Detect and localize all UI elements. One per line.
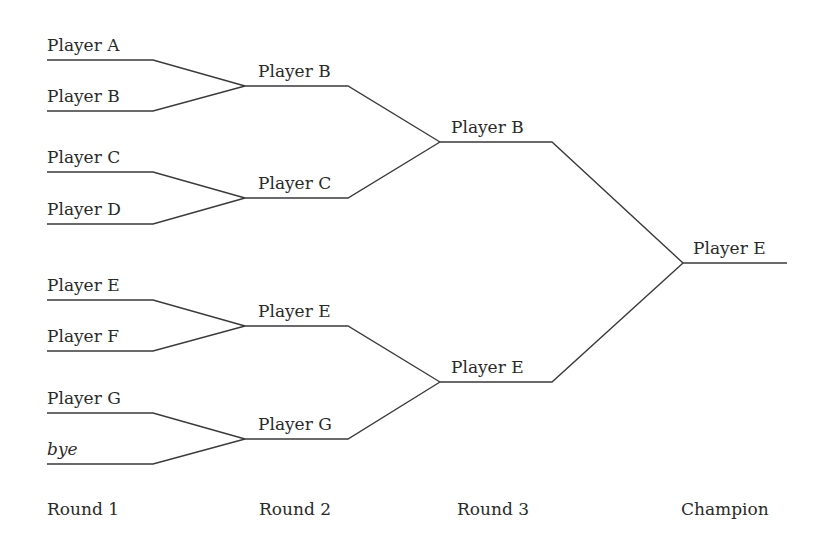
round-2-label: Round 2: [259, 501, 331, 518]
r1-player-b: Player B: [47, 88, 120, 105]
tournament-bracket: Player A Player B Player C Player D Play…: [0, 0, 824, 545]
r2-winner-4: Player G: [258, 416, 332, 433]
round-3-label: Round 3: [457, 501, 529, 518]
r1-player-e: Player E: [47, 277, 120, 294]
r1-player-d: Player D: [47, 201, 121, 218]
r1-player-f: Player F: [47, 328, 119, 345]
r1-player-c: Player C: [47, 149, 120, 166]
r2-winner-1: Player B: [258, 63, 331, 80]
r1-player-a: Player A: [47, 37, 119, 54]
champion-label: Champion: [681, 501, 769, 518]
champion-name: Player E: [693, 240, 766, 257]
r2-winner-2: Player C: [258, 175, 331, 192]
r1-bye: bye: [47, 441, 78, 458]
r1-player-g: Player G: [47, 390, 121, 407]
round-1-label: Round 1: [47, 501, 119, 518]
r3-winner-2: Player E: [451, 359, 524, 376]
r2-winner-3: Player E: [258, 303, 331, 320]
r3-winner-1: Player B: [451, 119, 524, 136]
bracket-lines: [0, 0, 824, 545]
